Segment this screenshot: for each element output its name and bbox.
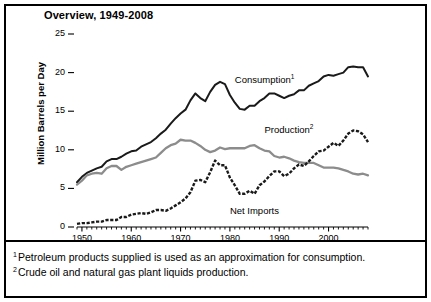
footnote-1: 1Petroleum products supplied is used as …	[13, 250, 418, 265]
footnote-divider	[6, 240, 425, 242]
footnote-2-marker: 2	[13, 266, 17, 273]
footnotes: 1Petroleum products supplied is used as …	[13, 250, 418, 280]
footnote-1-text: Petroleum products supplied is used as a…	[18, 251, 365, 263]
footnote-1-marker: 1	[13, 251, 17, 258]
footnote-2-text: Crude oil and natural gas plant liquids …	[18, 266, 249, 278]
page-title: Overview, 1949-2008	[44, 9, 153, 21]
chart-figure: Overview, 1949-2008 Million Barrels per …	[0, 0, 431, 302]
footnote-2: 2Crude oil and natural gas plant liquids…	[13, 265, 418, 280]
